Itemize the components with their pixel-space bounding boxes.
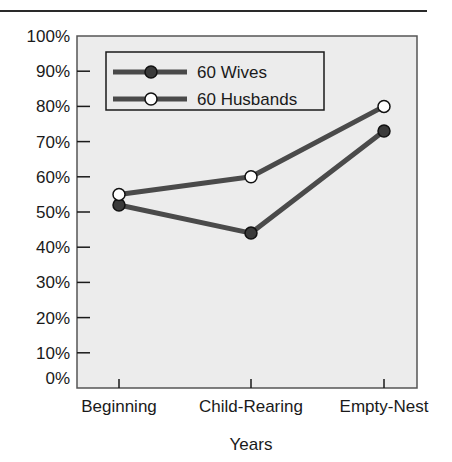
y-tick-label: 80% — [36, 97, 70, 116]
line-chart: 0%10%20%30%40%50%60%70%80%90%100% Beginn… — [0, 0, 452, 462]
y-tick-label: 10% — [36, 344, 70, 363]
legend-label-husbands: 60 Husbands — [197, 90, 297, 109]
filled-circle-marker-icon — [245, 227, 257, 239]
y-tick-label: 0% — [45, 369, 70, 388]
open-circle-marker-icon — [378, 100, 390, 112]
y-tick-label: 40% — [36, 238, 70, 257]
x-tick-label: Empty-Nest — [340, 397, 429, 416]
filled-circle-marker-icon — [145, 66, 157, 78]
y-tick-label: 20% — [36, 309, 70, 328]
x-tick-label: Child-Rearing — [199, 397, 303, 416]
filled-circle-marker-icon — [378, 125, 390, 137]
y-tick-label: 70% — [36, 133, 70, 152]
x-axis-title: Years — [230, 435, 273, 454]
x-tick-label: Beginning — [81, 397, 157, 416]
open-circle-marker-icon — [113, 188, 125, 200]
legend-label-wives: 60 Wives — [197, 63, 267, 82]
y-tick-label: 90% — [36, 62, 70, 81]
y-tick-label: 50% — [36, 203, 70, 222]
y-tick-label: 100% — [27, 27, 70, 46]
legend: 60 Wives 60 Husbands — [106, 52, 324, 110]
y-tick-label: 30% — [36, 273, 70, 292]
y-tick-label: 60% — [36, 168, 70, 187]
open-circle-marker-icon — [245, 171, 257, 183]
open-circle-marker-icon — [145, 93, 157, 105]
